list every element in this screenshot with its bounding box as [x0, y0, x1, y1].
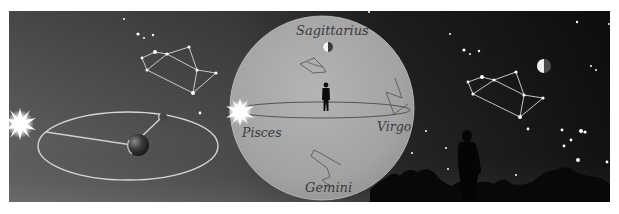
celestial-diagram: Sagittarius Pisces Virgo Gemini [0, 0, 619, 214]
diagram-canvas: Sagittarius Pisces Virgo Gemini [0, 0, 619, 214]
label-sagittarius: Sagittarius [296, 23, 369, 38]
half-moon-icon [323, 42, 333, 52]
label-gemini: Gemini [305, 180, 352, 195]
half-moon-icon [537, 59, 551, 73]
earth-icon [127, 134, 149, 156]
label-pisces: Pisces [241, 125, 282, 140]
moon-icon [159, 113, 167, 121]
label-virgo: Virgo [377, 119, 411, 134]
celestial-sphere: Sagittarius Pisces Virgo Gemini [230, 16, 414, 200]
